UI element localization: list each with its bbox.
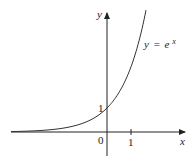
- y-tick-label-1: 1: [98, 102, 104, 114]
- x-tick-label-0: 0: [98, 134, 104, 146]
- exponential-function-graph: y x 0 1 1 y = e x: [0, 0, 196, 157]
- exp-curve: [11, 10, 146, 131]
- x-tick-label-1: 1: [128, 136, 134, 148]
- function-label: y = e x: [143, 37, 176, 50]
- chart-canvas: y x 0 1 1 y = e x: [0, 0, 196, 157]
- x-axis-label: x: [179, 135, 185, 147]
- y-axis-label: y: [96, 8, 102, 20]
